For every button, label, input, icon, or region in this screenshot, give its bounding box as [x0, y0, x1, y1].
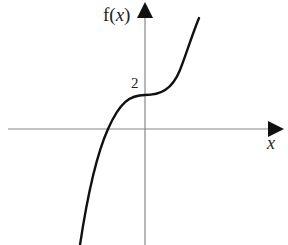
- y-axis-label: f(x): [103, 5, 130, 24]
- y-axis-arrow-icon: [137, 2, 153, 18]
- x-axis-label: x: [267, 134, 275, 152]
- function-plot: [0, 0, 288, 245]
- function-curve: [80, 18, 199, 245]
- y-intercept-label: 2: [131, 76, 139, 91]
